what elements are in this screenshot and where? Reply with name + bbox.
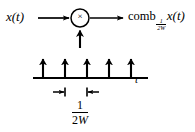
impulse-train (43, 59, 131, 78)
output-subscript: 12W (156, 18, 166, 31)
period-denominator-w: W (78, 113, 88, 127)
time-axis-label: t (135, 74, 138, 85)
sampling-period-label: 1 2W (72, 100, 88, 126)
output-comb-text: comb (128, 10, 156, 23)
multiply-icon: × (74, 12, 86, 21)
input-signal-label: x(t) (6, 10, 24, 23)
output-xt-text: x(t) (167, 9, 185, 22)
period-dimension-marker (53, 88, 99, 97)
output-signal-label: comb12Wx(t) (128, 9, 185, 28)
sampling-block-diagram-figure: × x(t) comb12Wx(t) t 1 2W (0, 0, 195, 132)
output-subscript-denominator: 2W (156, 25, 166, 31)
period-denominator: 2W (72, 114, 88, 126)
period-numerator: 1 (72, 100, 88, 111)
